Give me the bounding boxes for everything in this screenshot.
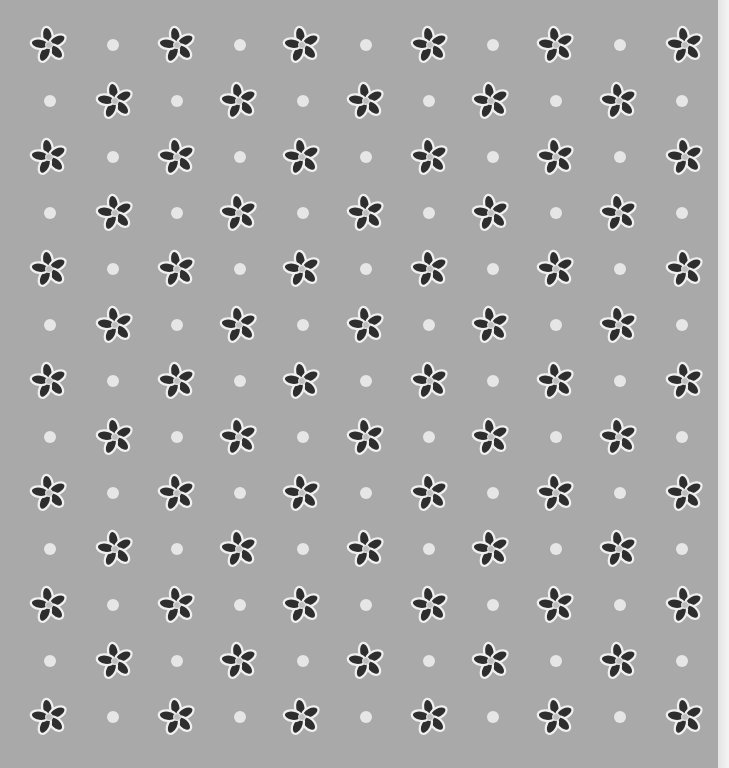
flower-icon [27,24,71,66]
dot-icon [107,599,119,611]
flower-icon [155,24,199,66]
dot-icon [676,207,688,219]
dot-icon [297,207,309,219]
dot-icon [614,375,626,387]
dot-icon [550,655,562,667]
flower-icon [280,136,324,178]
flower-icon [280,360,324,402]
flower-icon [469,528,513,570]
dot-icon [171,207,183,219]
dot-icon [171,319,183,331]
flower-icon [344,640,388,682]
flower-icon [663,24,707,66]
paper-edge [718,0,729,768]
flower-icon [27,584,71,626]
dot-icon [676,319,688,331]
dot-icon [234,151,246,163]
dot-icon [676,543,688,555]
dot-icon [550,431,562,443]
dot-icon [360,375,372,387]
dot-icon [297,655,309,667]
flower-icon [408,584,452,626]
flower-icon [344,416,388,458]
dot-icon [550,207,562,219]
flower-icon [93,80,137,122]
dot-icon [234,263,246,275]
flower-icon [344,80,388,122]
flower-icon [155,360,199,402]
dot-icon [44,543,56,555]
flower-icon [27,136,71,178]
dot-icon [487,487,499,499]
dot-icon [44,655,56,667]
flower-icon [534,136,578,178]
flower-icon [217,192,261,234]
dot-icon [171,431,183,443]
flower-icon [597,416,641,458]
dot-icon [360,487,372,499]
dot-icon [676,655,688,667]
flower-icon [217,528,261,570]
dot-icon [360,263,372,275]
dot-icon [423,207,435,219]
dot-icon [423,95,435,107]
flower-icon [280,24,324,66]
dot-icon [487,599,499,611]
dot-icon [44,431,56,443]
flower-icon [534,360,578,402]
flower-icon [344,304,388,346]
dot-icon [234,487,246,499]
flower-icon [93,416,137,458]
dot-icon [423,431,435,443]
dot-icon [171,543,183,555]
dot-icon [360,599,372,611]
dot-icon [107,39,119,51]
flower-icon [155,136,199,178]
dot-icon [297,431,309,443]
flower-icon [663,136,707,178]
flower-icon [155,248,199,290]
dot-icon [44,95,56,107]
dot-icon [44,319,56,331]
flower-icon [597,192,641,234]
dot-group [44,39,688,723]
flower-icon [408,248,452,290]
flower-icon [408,24,452,66]
flower-icon [663,360,707,402]
flower-icon [663,472,707,514]
flower-icon [534,472,578,514]
dot-icon [487,263,499,275]
flower-icon [155,584,199,626]
dot-icon [614,599,626,611]
dot-icon [487,151,499,163]
flower-icon [280,248,324,290]
dot-icon [423,319,435,331]
flower-icon [663,584,707,626]
dot-icon [614,39,626,51]
dot-icon [487,375,499,387]
flower-icon [534,696,578,738]
dot-icon [107,487,119,499]
dot-icon [234,39,246,51]
flower-icon [93,192,137,234]
dot-icon [550,319,562,331]
dot-icon [423,655,435,667]
dot-icon [614,151,626,163]
flower-icon [217,304,261,346]
dot-icon [423,543,435,555]
dot-icon [614,487,626,499]
flower-icon [597,640,641,682]
flower-icon [344,192,388,234]
flower-icon [27,472,71,514]
dot-icon [44,207,56,219]
dot-icon [107,375,119,387]
dot-icon [487,711,499,723]
dot-icon [234,599,246,611]
flower-icon [93,528,137,570]
flower-icon [597,528,641,570]
flower-icon [469,192,513,234]
flower-icon [534,248,578,290]
dot-icon [107,151,119,163]
dot-icon [550,543,562,555]
dot-icon [360,39,372,51]
